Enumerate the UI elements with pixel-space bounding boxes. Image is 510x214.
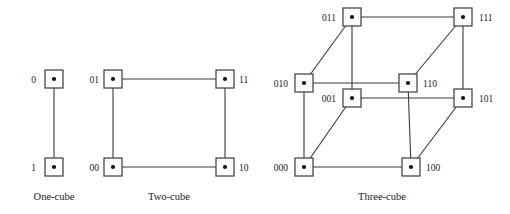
node-dot [350,15,354,19]
node-dot [461,15,465,19]
node-dot [406,81,410,85]
hypercube-diagram-canvas: 0101110010011111010110001101000100 One-c… [0,0,510,214]
node-label-010: 010 [274,79,289,89]
cube-edge [408,17,463,83]
node-label-0: 0 [31,75,36,85]
node-dot [409,165,413,169]
node-dot [350,96,354,100]
cube-node [45,70,63,88]
node-dot [111,165,115,169]
captions-layer: One-cubeTwo-cubeThree-cube [34,191,407,202]
node-label-011: 011 [322,13,336,23]
cube-node [216,158,234,176]
panel-caption-two-cube: Two-cube [148,191,190,202]
panel-caption-three-cube: Three-cube [358,191,406,202]
cube-node [295,158,313,176]
node-label-1: 1 [31,163,36,173]
cube-node [454,89,472,107]
nodes-layer [45,8,472,176]
cube-node [402,158,420,176]
cube-node [454,8,472,26]
node-dot [223,165,227,169]
node-label-01: 01 [90,75,100,85]
node-dot [302,81,306,85]
cube-edge [408,83,411,167]
cube-node [343,8,361,26]
node-dot [223,77,227,81]
hypercube-figure: 0101110010011111010110001101000100 One-c… [0,0,510,214]
node-label-001: 001 [322,94,337,104]
node-label-100: 100 [426,163,441,173]
cube-node [104,158,122,176]
node-label-111: 111 [479,13,493,23]
cube-node [399,74,417,92]
cube-edge [411,98,463,167]
node-label-110: 110 [423,79,437,89]
cube-node [45,158,63,176]
panel-caption-one-cube: One-cube [34,191,75,202]
node-dot [52,77,56,81]
node-label-11: 11 [239,75,248,85]
node-dot [52,165,56,169]
node-dot [111,77,115,81]
node-label-101: 101 [479,94,494,104]
cube-node [343,89,361,107]
cube-node [295,74,313,92]
node-dot [461,96,465,100]
node-label-10: 10 [239,163,249,173]
node-label-000: 000 [274,163,289,173]
cube-node [104,70,122,88]
cube-edge [304,17,352,83]
cube-node [216,70,234,88]
node-label-00: 00 [90,163,100,173]
cube-edge [304,98,352,167]
node-dot [302,165,306,169]
